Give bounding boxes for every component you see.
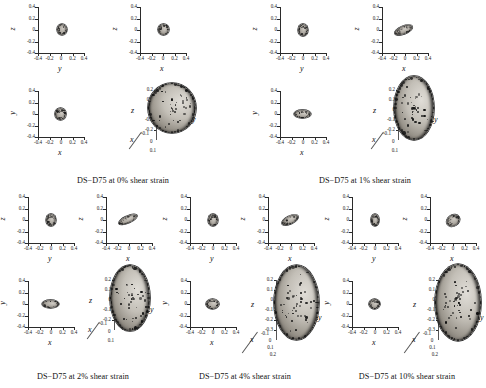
z-tick-3d [274, 280, 277, 281]
blob3-edge-chunk [167, 132, 170, 133]
particle-blob-3d [148, 83, 195, 133]
blob3-interior-dot [469, 318, 471, 320]
y-tick-label: -0.4 [410, 240, 427, 245]
y-tick [35, 19, 38, 20]
z-tick-label-3d: 0.2 [95, 277, 111, 282]
x-axis-label: x [300, 149, 304, 157]
x-axis-label-3d: x [250, 336, 254, 344]
blob3-edge-chunk [298, 265, 300, 267]
blob3-edge-chunk [161, 130, 163, 131]
blob3-edge-chunk [149, 101, 150, 102]
blob3-interior-dot [305, 302, 307, 304]
blob3-edge-chunk [479, 311, 480, 314]
z-tick-label-3d: -0.2 [419, 317, 435, 322]
blob3-edge-chunk [316, 312, 318, 314]
blob3-edge-chunk [276, 322, 277, 323]
y-tick-label: 0 [332, 301, 349, 306]
blob3-interior-dot [448, 317, 450, 319]
blob-speckle [306, 113, 307, 114]
group-caption: DS−D75 at 0% shear strain [4, 176, 242, 185]
plot-axes: 0.40.20-0.2-0.4-0.4-0.200.20.4xz [86, 196, 162, 266]
blob3-interior-dot [120, 303, 122, 305]
blob3-interior-dot [170, 104, 171, 105]
blob-speckle [50, 215, 51, 216]
y-tick-label: -0.2 [8, 229, 25, 234]
blob-speckle [121, 224, 124, 227]
blob-speckle [458, 220, 459, 221]
blob3-interior-dot [444, 293, 446, 295]
blob-speckle [304, 35, 305, 36]
blob-speckle [59, 31, 60, 32]
blob-speckle [307, 117, 308, 118]
blob-speckle [61, 24, 62, 25]
blob-speckle [406, 31, 408, 33]
x-tick-label: 0.4 [319, 140, 333, 145]
y-tick [379, 42, 382, 43]
y-tick-label: 0.2 [170, 290, 187, 295]
x-tick-label: 0.4 [229, 246, 243, 251]
group-caption: DS−D75 at 4% shear strain [166, 372, 324, 381]
y-tick [427, 220, 430, 221]
blob-speckle [64, 116, 65, 117]
blob3-edge-chunk [121, 268, 124, 271]
blob3-edge-chunk [274, 296, 276, 299]
y-axis-label: z [239, 217, 247, 220]
blob3-edge-chunk [149, 97, 151, 99]
y-tick-label: -0.4 [332, 324, 349, 329]
group-g3: 0.40.20-0.2-0.4-0.4-0.200.20.4yz0.40.20-… [166, 192, 324, 386]
blob-speckle [54, 225, 56, 226]
blob3-interior-dot [418, 122, 420, 124]
panel-y-vs-x: 0.40.20-0.2-0.4-0.4-0.200.20.4xy [332, 280, 408, 350]
blob3-edge-chunk [113, 319, 116, 322]
blob-speckle [375, 299, 376, 300]
y-tick-label: 0 [332, 217, 349, 222]
blob-speckle [371, 220, 372, 221]
blob-speckle [376, 215, 377, 216]
blob3-interior-dot [411, 117, 413, 119]
blob-speckle [211, 301, 212, 302]
y-tick [137, 19, 140, 20]
blob3-edge-chunk [394, 120, 398, 123]
plot-axes: 0.40.20-0.2-0.4-0.4-0.200.20.4yz [8, 196, 84, 266]
y-tick [349, 316, 352, 317]
blob3-edge-chunk [432, 98, 433, 100]
x-tick-label: 0.4 [145, 246, 159, 251]
panel-3d-view: 0.20.10-0.1-0.2z-0.100.1xy [130, 88, 206, 164]
blob3-edge-chunk [474, 325, 476, 327]
blob-speckle [64, 118, 65, 119]
blob3-edge-chunk [431, 93, 433, 97]
x-tick-label-3d: 0.1 [99, 338, 114, 343]
x-tick-label: 0.4 [391, 246, 405, 251]
y-axis-label: y [9, 111, 17, 115]
z-tick-3d [154, 130, 157, 131]
y-tick-label: 0.4 [18, 4, 35, 9]
blob3-edge-chunk [397, 91, 399, 93]
x-tick-label-3d: -0.1 [92, 321, 107, 326]
y-tick [137, 42, 140, 43]
x-tick-label: 0.4 [319, 56, 333, 61]
z-tick-label-3d: 0.1 [379, 97, 395, 102]
y-tick-label: -0.4 [8, 324, 25, 329]
x-tick-label-3d: -0.1 [416, 331, 431, 336]
blob3-interior-dot [185, 107, 187, 109]
y-axis-label: y [251, 111, 259, 115]
blob-speckle [164, 26, 165, 27]
y-tick-label: -0.2 [260, 123, 277, 128]
y-tick [265, 220, 268, 221]
x-tick-label-3d: 0.2 [423, 352, 438, 357]
blob-speckle [51, 225, 52, 226]
y-tick-label: -0.4 [18, 50, 35, 55]
x-tick-label: 0.4 [421, 56, 435, 61]
y-tick [103, 220, 106, 221]
particle-blob [55, 108, 66, 119]
blob-speckle [306, 33, 307, 35]
blob-speckle [165, 33, 167, 35]
x-axis-label-3d: x [372, 136, 376, 144]
particle-blob [208, 214, 218, 226]
y-axis-label: z [401, 217, 409, 220]
blob3-edge-chunk [147, 306, 150, 307]
blob3-edge-chunk [148, 103, 150, 105]
particle-blob [57, 24, 68, 36]
blob3-edge-chunk [194, 100, 196, 102]
blob3-edge-chunk [433, 107, 434, 109]
